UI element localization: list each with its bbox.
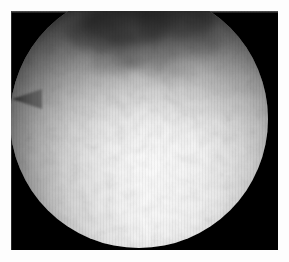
photographic-plate-frame xyxy=(11,11,278,250)
celestial-disk-container xyxy=(11,11,278,250)
screenshot-root: Grayscale astronomical photograph of a l… xyxy=(0,0,289,262)
limb-darkening-ring xyxy=(11,11,268,248)
prominence-spike xyxy=(11,87,43,111)
